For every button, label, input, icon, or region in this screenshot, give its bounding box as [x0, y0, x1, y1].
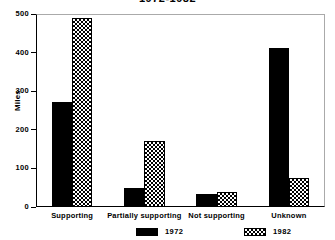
bar-group — [124, 14, 164, 207]
legend-label-1972: 1972 — [165, 227, 183, 236]
y-tick-label: 200 — [16, 125, 29, 135]
bar-1982-unknown — [289, 178, 309, 207]
bar-1972-unknown — [269, 48, 289, 207]
bar-chart-figure: 1972-1982 Miles 0100200300400500 Support… — [0, 0, 335, 240]
legend-swatch-1972 — [136, 228, 158, 236]
bar-group — [52, 14, 92, 207]
x-tick-label: Unknown — [229, 211, 335, 220]
y-tick: 500 — [0, 9, 36, 19]
bar-1972-partially-supporting — [124, 188, 144, 207]
y-tick: 300 — [0, 86, 36, 96]
y-tick-label: 300 — [16, 86, 29, 96]
bar-1982-supporting — [72, 18, 92, 207]
chart-title: 1972-1982 — [0, 0, 335, 5]
y-tick: 400 — [0, 48, 36, 58]
legend-label-1982: 1982 — [273, 227, 291, 236]
y-tick-label: 100 — [16, 163, 29, 173]
y-tick: 100 — [0, 163, 36, 173]
bar-1972-supporting — [52, 102, 72, 207]
bar-1982-not-supporting — [217, 192, 237, 207]
legend-entry-1982: 1982 — [244, 226, 291, 237]
bar-1972-not-supporting — [196, 194, 216, 207]
y-tick-label: 500 — [16, 9, 29, 19]
bars-layer — [36, 14, 325, 207]
bar-1982-partially-supporting — [144, 141, 164, 207]
legend-swatch-1982 — [244, 228, 266, 236]
legend-entry-1972: 1972 — [136, 226, 183, 237]
y-tick-label: 400 — [16, 48, 29, 58]
chart-legend: 19721982 — [36, 226, 325, 238]
bar-group — [196, 14, 236, 207]
y-tick: 200 — [0, 125, 36, 135]
bar-group — [269, 14, 309, 207]
